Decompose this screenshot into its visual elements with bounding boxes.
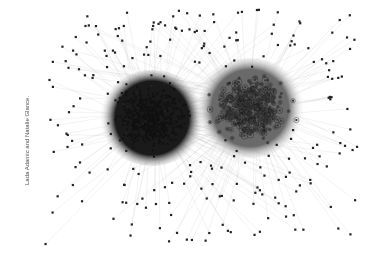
attribution-caption: Lada Adamic and Natalie Glance.: [24, 75, 30, 185]
network-graph: [0, 0, 380, 253]
network-figure: Lada Adamic and Natalie Glance.: [0, 0, 380, 253]
